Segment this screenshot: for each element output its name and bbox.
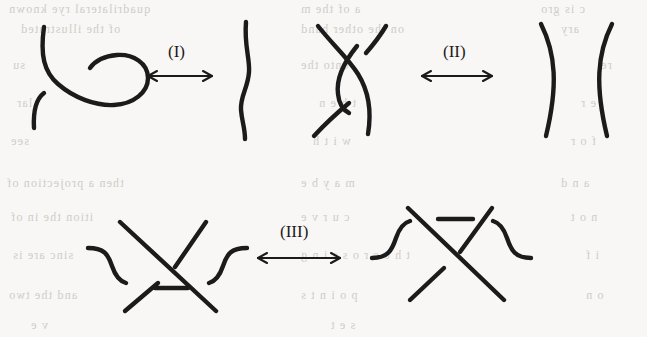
move-label-1: (I) [168,42,185,62]
move-label-2: (II) [443,42,466,62]
move-label-3: (III) [280,222,308,242]
reidemeister-moves-figure: quadrilateral rye knowna of the mc is gr… [0,0,647,337]
move-label-layer: (I) (II) (III) [0,0,647,337]
